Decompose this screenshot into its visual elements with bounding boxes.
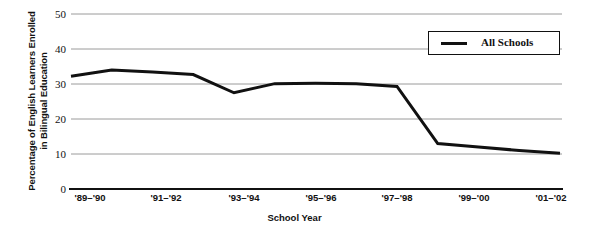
x-tick-99-00: '99–'00 [442,192,506,203]
x-axis-title: School Year [0,212,589,223]
legend-swatch-all-schools [441,42,467,45]
x-tick-95-96: '95–'96 [289,192,353,203]
legend-label-all-schools: All Schools [481,36,533,48]
x-tick-01-02: '01–'02 [519,192,583,203]
line-chart: Percentage of English Learners Enrolled … [0,0,589,232]
x-tick-93-94: '93–'94 [212,192,276,203]
x-tick-97-98: '97–'98 [365,192,429,203]
series-line-all-schools [71,70,560,153]
x-tick-89-90: '89–'90 [58,192,122,203]
x-tick-91-92: '91–'92 [134,192,198,203]
legend: All Schools [428,31,560,55]
